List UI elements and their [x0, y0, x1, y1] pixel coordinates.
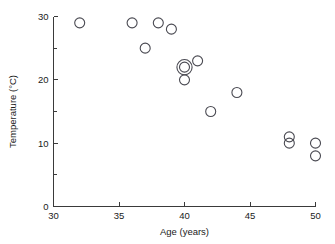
data-point: [75, 18, 85, 28]
data-point: [193, 56, 203, 66]
y-axis-tick-label: 20: [38, 74, 49, 85]
y-axis-tick-label: 10: [38, 138, 49, 149]
data-point: [284, 138, 294, 148]
data-point: [153, 18, 163, 28]
x-axis-tick-label: 30: [48, 210, 59, 221]
x-axis-tick-label: 40: [179, 210, 190, 221]
data-point: [180, 75, 190, 85]
x-axis-tick-label: 45: [245, 210, 256, 221]
data-point: [311, 151, 321, 161]
data-point: [206, 107, 216, 117]
data-point: [232, 88, 242, 98]
data-point: [180, 62, 190, 72]
y-axis-tick-label: 0: [43, 201, 48, 212]
x-axis-tick-label: 35: [114, 210, 125, 221]
data-point: [140, 43, 150, 53]
plot-canvas: 30354045500102030Age (years)Temperature …: [0, 0, 335, 244]
scatter-plot-figure: 30354045500102030Age (years)Temperature …: [0, 0, 335, 244]
data-point: [127, 18, 137, 28]
y-axis-tick-label: 30: [38, 11, 49, 22]
x-axis-tick-label: 50: [310, 210, 321, 221]
data-point: [166, 24, 176, 34]
x-axis-title: Age (years): [160, 226, 209, 237]
y-axis-title: Temperature (°C): [7, 75, 18, 148]
data-point: [311, 138, 321, 148]
